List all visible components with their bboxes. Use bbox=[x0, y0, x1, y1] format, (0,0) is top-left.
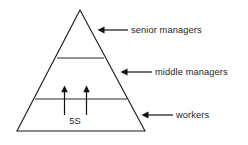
leader-arrow-senior bbox=[98, 27, 129, 34]
pyramid-diagram: 5S senior managers middle managers worke… bbox=[0, 0, 248, 145]
leader-arrow-middle-head bbox=[121, 69, 128, 76]
leader-arrow-senior-head bbox=[98, 27, 105, 34]
leader-arrow-workers-head bbox=[142, 112, 149, 119]
label-workers: workers bbox=[175, 110, 209, 120]
leader-arrow-middle bbox=[121, 69, 153, 76]
label-senior-managers: senior managers bbox=[131, 25, 202, 35]
five-s-label: 5S bbox=[69, 116, 80, 126]
diagram-canvas: 5S senior managers middle managers worke… bbox=[0, 0, 248, 145]
leader-arrow-workers bbox=[142, 112, 174, 119]
label-middle-managers: middle managers bbox=[155, 67, 228, 77]
